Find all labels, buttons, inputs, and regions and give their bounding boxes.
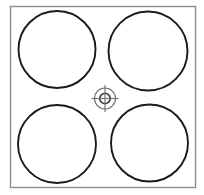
diagram-svg bbox=[0, 0, 204, 195]
figure-canvas bbox=[0, 0, 204, 195]
canvas-background bbox=[0, 0, 204, 195]
